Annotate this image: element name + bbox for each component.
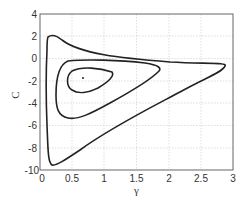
center-point [82, 77, 84, 79]
ytick-neg2: -2 [28, 76, 37, 87]
contours [46, 35, 225, 165]
xtick-3: 3 [230, 173, 236, 184]
contour-chart: 4 2 0 -2 -4 -6 -8 -10 0 0.5 1 1.5 2 2.5 … [0, 0, 250, 202]
xtick-2: 2 [166, 173, 172, 184]
xtick-1.5: 1.5 [130, 173, 144, 184]
ytick-0: 0 [31, 53, 37, 64]
xtick-1: 1 [101, 173, 107, 184]
y-axis-label: C [9, 91, 21, 98]
ytick-neg8: -8 [28, 143, 37, 154]
ytick-2: 2 [31, 31, 37, 42]
x-axis-ticks: 0 0.5 1 1.5 2 2.5 3 [39, 173, 236, 184]
xtick-0.5: 0.5 [65, 173, 79, 184]
ytick-neg4: -4 [28, 98, 37, 109]
x-axis-label: γ [133, 184, 139, 196]
xtick-0: 0 [39, 173, 45, 184]
inner-contour [68, 68, 113, 92]
grid [40, 14, 233, 170]
outer-contour [46, 35, 225, 165]
ytick-neg10: -10 [25, 165, 40, 176]
xtick-2.5: 2.5 [194, 173, 208, 184]
y-axis-ticks: 4 2 0 -2 -4 -6 -8 -10 [25, 9, 40, 176]
ytick-neg6: -6 [28, 120, 37, 131]
ytick-4: 4 [31, 9, 37, 20]
